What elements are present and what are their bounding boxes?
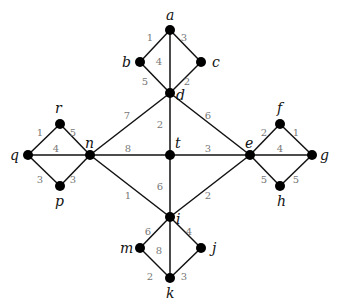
edge-weight-m-k: 2 bbox=[147, 271, 153, 282]
node-i bbox=[165, 212, 175, 222]
node-a bbox=[165, 25, 175, 35]
node-label-b: b bbox=[122, 54, 131, 70]
edge-weight-a-d: 4 bbox=[156, 56, 162, 67]
edge-weight-t-i: 6 bbox=[157, 181, 163, 192]
node-label-h: h bbox=[277, 193, 286, 209]
node-label-f: f bbox=[276, 100, 285, 116]
edge-weight-a-c: 3 bbox=[181, 32, 187, 43]
node-label-c: c bbox=[212, 54, 220, 70]
node-label-g: g bbox=[320, 147, 329, 163]
edge-weight-e-g: 4 bbox=[277, 143, 283, 154]
node-t bbox=[165, 150, 175, 160]
node-h bbox=[275, 181, 285, 191]
edge-weight-e-f: 2 bbox=[261, 127, 267, 138]
node-r bbox=[55, 119, 65, 129]
node-g bbox=[307, 150, 317, 160]
node-c bbox=[196, 57, 206, 67]
edge-q-p bbox=[28, 155, 60, 186]
node-label-j: j bbox=[209, 240, 217, 256]
node-label-p: p bbox=[55, 193, 64, 209]
node-label-e: e bbox=[245, 135, 253, 151]
edge-weight-q-r: 1 bbox=[37, 127, 43, 138]
node-j bbox=[196, 243, 206, 253]
edge-weight-d-e: 6 bbox=[205, 110, 211, 121]
node-q bbox=[23, 150, 33, 160]
edge-weight-n-t: 8 bbox=[125, 143, 131, 154]
edge-weight-h-g: 5 bbox=[293, 174, 299, 185]
node-n bbox=[85, 150, 95, 160]
edge-weight-i-j: 4 bbox=[186, 226, 192, 237]
node-d bbox=[165, 88, 175, 98]
edge-weight-e-i: 2 bbox=[205, 190, 211, 201]
edge-weight-q-n: 4 bbox=[53, 143, 59, 154]
node-label-d: d bbox=[176, 87, 185, 103]
node-label-i: i bbox=[176, 211, 180, 227]
node-label-n: n bbox=[85, 135, 94, 151]
edge-weight-p-n: 3 bbox=[70, 174, 76, 185]
edge-weight-i-k: 8 bbox=[156, 245, 162, 256]
edge-weight-d-t: 2 bbox=[157, 119, 163, 130]
node-label-m: m bbox=[120, 240, 133, 256]
edge-weight-c-d: 2 bbox=[184, 76, 190, 87]
edge-weight-a-b: 1 bbox=[147, 32, 153, 43]
node-f bbox=[275, 119, 285, 129]
edge-weight-b-d: 5 bbox=[142, 76, 148, 87]
edge-weight-f-g: 1 bbox=[293, 127, 299, 138]
node-p bbox=[55, 181, 65, 191]
edge-weight-j-k: 3 bbox=[181, 271, 187, 282]
edge-weight-e-h: 5 bbox=[261, 174, 267, 185]
edge-weight-q-p: 3 bbox=[37, 174, 43, 185]
node-e bbox=[245, 150, 255, 160]
node-label-k: k bbox=[166, 285, 174, 301]
node-b bbox=[135, 57, 145, 67]
edge-e-i bbox=[170, 155, 250, 217]
weighted-graph: 1345276283612154332145564823 abcdtneirqp… bbox=[0, 0, 340, 306]
node-label-r: r bbox=[55, 100, 63, 116]
edge-weight-n-i: 1 bbox=[125, 190, 131, 201]
edge-weight-t-e: 3 bbox=[205, 143, 211, 154]
edge-weight-r-n: 5 bbox=[70, 127, 76, 138]
edge-weight-i-m: 6 bbox=[145, 226, 151, 237]
node-k bbox=[165, 273, 175, 283]
node-m bbox=[135, 243, 145, 253]
node-label-a: a bbox=[166, 7, 174, 23]
node-label-t: t bbox=[175, 135, 181, 151]
node-label-q: q bbox=[10, 147, 19, 163]
edge-weight-d-n: 7 bbox=[124, 110, 130, 121]
